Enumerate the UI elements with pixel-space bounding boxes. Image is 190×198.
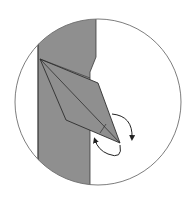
fold-back-arrow-icon xyxy=(95,140,121,156)
origami-diagram xyxy=(0,0,190,198)
detail-view-content xyxy=(38,12,120,190)
diagram-stage xyxy=(0,0,190,198)
